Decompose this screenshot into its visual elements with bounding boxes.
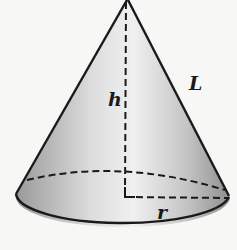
- cone-figure: h L r: [0, 0, 237, 250]
- cone-diagram: h L r: [0, 0, 237, 250]
- cone-surface: [16, 0, 230, 227]
- height-label: h: [108, 88, 122, 110]
- slant-height-label: L: [188, 72, 202, 94]
